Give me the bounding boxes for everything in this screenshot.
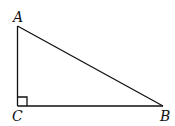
triangle-diagram: A B C (0, 0, 175, 126)
edge-ba (18, 26, 164, 106)
vertex-label-b: B (159, 108, 170, 124)
right-angle-marker (18, 97, 28, 106)
vertex-label-a: A (11, 9, 23, 25)
vertex-label-c: C (12, 108, 23, 124)
